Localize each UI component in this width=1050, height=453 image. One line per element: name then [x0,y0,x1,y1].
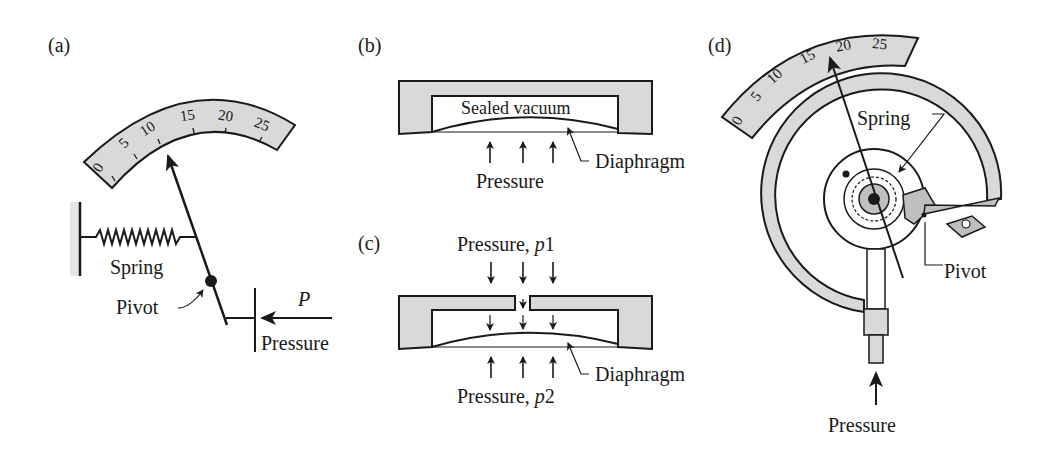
pressure-p2-label: Pressure, p2 [457,385,555,408]
pivot-leader-d [925,222,943,265]
gauge-inlet [869,335,883,363]
diaphragm-c [432,333,618,347]
pressure-label-a: Pressure [261,332,329,354]
pivot-point-a [205,275,217,287]
spring-label-d: Spring [857,107,910,130]
panel-label-d: (d) [708,34,731,57]
pivot-leader [178,290,203,308]
panel-label-c: (c) [358,232,380,255]
panel-b: (b) Sealed vacuum Pressure Diaphragm [358,34,685,192]
gauge-stem [867,249,885,309]
pressure-label-b: Pressure [476,170,544,192]
panel-label-a: (a) [48,34,70,57]
diaphragm-leader-b [568,128,589,161]
panel-label-b: (b) [358,34,381,57]
diaphragm-label-b: Diaphragm [595,150,685,173]
scale-tick-label: 20 [835,36,853,54]
spring-label: Spring [110,256,163,279]
panel-c: (c) Pressure, p1 Pressure, p2 Diaphragm [358,232,685,408]
stop-pin [843,171,850,178]
pressure-p1-label: Pressure, p1 [457,233,555,256]
scale-tick-label: 20 [217,107,234,125]
diaphragm-b [432,117,618,132]
pivot-label: Pivot [116,296,159,318]
panel-a: (a) 0 5 10 15 20 25 Spring P [48,34,332,354]
diaphragm-leader-c [568,343,589,374]
force-label-p: P [297,288,310,310]
scale-tick-label: 25 [871,35,887,52]
gauge-socket [864,309,888,335]
scale-tick-label: 15 [179,106,196,124]
linkage-arm [924,198,999,214]
panel-d: (d) 0 5 10 15 20 25 Spring [708,34,1001,436]
diaphragm-label-c: Diaphragm [595,363,685,386]
sensor-housing-c-right [530,296,652,349]
scale-arc-a: 0 5 10 15 20 25 [84,100,295,188]
pressure-gauges-figure: (a) 0 5 10 15 20 25 Spring P [0,0,1050,453]
sealed-vacuum-label: Sealed vacuum [461,98,570,118]
spring-coil-a [80,230,197,244]
linkage-joint [962,220,970,228]
pivot-point-d [922,213,927,218]
pivot-label-d: Pivot [944,260,987,282]
pressure-label-d: Pressure [828,414,896,436]
